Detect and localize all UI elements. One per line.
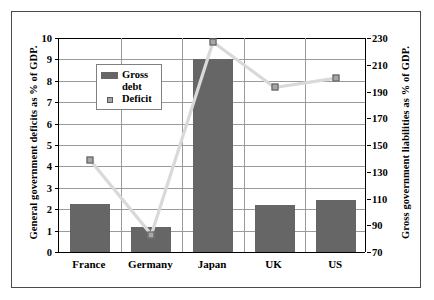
legend-label-gross-debt: Gross debt: [122, 69, 148, 92]
gridline-x-2: [182, 38, 183, 252]
tick-right-110: [367, 199, 371, 200]
tick-label-left-1: 1: [47, 225, 52, 236]
tick-label-left-2: 2: [47, 204, 52, 215]
bar-japan: [193, 59, 233, 252]
y-axis-title-right: Gross government liabilities as % of GDP…: [400, 33, 411, 253]
gridline-x-3: [244, 38, 245, 252]
tick-left-2: [55, 209, 59, 210]
legend-label-deficit: Deficit: [122, 93, 152, 105]
legend-marker-swatch-icon: [101, 93, 118, 106]
gridline-x-4: [305, 38, 306, 252]
marker-deficit-germany: [148, 231, 155, 238]
tick-label-right-90: 90: [372, 220, 383, 231]
tick-right-130: [367, 172, 371, 173]
tick-right-190: [367, 92, 371, 93]
x-label-germany: Germany: [128, 258, 173, 270]
tick-label-left-8: 8: [47, 75, 52, 86]
marker-deficit-france: [86, 156, 93, 163]
tick-label-right-170: 170: [372, 113, 388, 124]
bar-us: [316, 200, 356, 252]
tick-left-1: [55, 231, 59, 232]
legend-item-deficit[interactable]: Deficit: [100, 93, 158, 106]
chart-figure: General government deficits as % of GDP.…: [0, 0, 434, 300]
legend-item-gross-debt[interactable]: Gross debt: [100, 69, 158, 82]
tick-left-6: [55, 124, 59, 125]
tick-label-right-70: 70: [372, 247, 383, 258]
y-axis-title-left: General government deficits as % of GDP.: [28, 33, 39, 253]
tick-label-right-190: 190: [372, 86, 388, 97]
marker-deficit-uk: [271, 84, 278, 91]
chart-legend[interactable]: Gross debt Deficit: [96, 64, 162, 110]
tick-label-left-7: 7: [47, 97, 52, 108]
tick-right-210: [367, 65, 371, 66]
tick-label-left-9: 9: [47, 54, 52, 65]
tick-right-70: [367, 252, 371, 253]
tick-label-left-0: 0: [47, 247, 52, 258]
x-label-uk: UK: [265, 258, 282, 270]
tick-left-5: [55, 145, 59, 146]
tick-left-7: [55, 102, 59, 103]
tick-label-right-230: 230: [372, 33, 388, 44]
tick-label-left-6: 6: [47, 118, 52, 129]
tick-label-left-4: 4: [47, 161, 52, 172]
marker-deficit-japan: [210, 39, 217, 46]
tick-label-left-10: 10: [42, 33, 53, 44]
tick-left-0: [55, 252, 59, 253]
tick-label-left-5: 5: [47, 140, 52, 151]
tick-left-8: [55, 81, 59, 82]
legend-bar-swatch-icon: [101, 72, 118, 79]
bar-france: [70, 204, 110, 252]
x-label-japan: Japan: [198, 258, 227, 270]
bar-uk: [255, 205, 295, 252]
tick-label-right-110: 110: [372, 193, 387, 204]
x-label-us: US: [328, 258, 342, 270]
tick-left-9: [55, 59, 59, 60]
tick-label-right-130: 130: [372, 166, 388, 177]
tick-label-right-210: 210: [372, 59, 388, 70]
tick-left-10: [55, 38, 59, 39]
tick-right-170: [367, 118, 371, 119]
tick-left-4: [55, 166, 59, 167]
tick-right-230: [367, 38, 371, 39]
tick-right-90: [367, 225, 371, 226]
tick-left-3: [55, 188, 59, 189]
gridline-y-0: [59, 252, 365, 253]
x-label-france: France: [72, 258, 105, 270]
tick-right-150: [367, 145, 371, 146]
tick-label-left-3: 3: [47, 182, 52, 193]
marker-deficit-us: [333, 75, 340, 82]
tick-label-right-150: 150: [372, 140, 388, 151]
